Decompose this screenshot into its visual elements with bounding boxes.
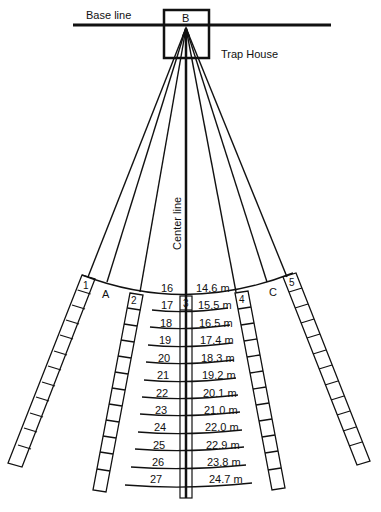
distance-20: 18.3 m bbox=[201, 353, 235, 364]
station-arc bbox=[82, 273, 293, 295]
distance-22: 20.1 m bbox=[203, 388, 237, 399]
row-22: 22 bbox=[156, 388, 168, 399]
row-25: 25 bbox=[153, 440, 165, 451]
row-23: 23 bbox=[155, 405, 167, 416]
distance-18: 16.5 m bbox=[199, 318, 233, 329]
station-4-label: 4 bbox=[239, 295, 245, 305]
station-1-label: 1 bbox=[83, 281, 89, 291]
row-16: 16 bbox=[161, 283, 173, 294]
fan-lines bbox=[88, 28, 287, 292]
distance-26: 23.8 m bbox=[207, 457, 241, 468]
trap-field-diagram bbox=[0, 0, 381, 512]
base-line-label: Base line bbox=[86, 10, 131, 21]
row-27: 27 bbox=[150, 474, 162, 485]
station-5-label: 5 bbox=[289, 278, 295, 288]
row-24: 24 bbox=[154, 422, 166, 433]
point-a-label: A bbox=[102, 289, 109, 300]
distance-21: 19.2 m bbox=[202, 370, 236, 381]
distance-25: 22.9 m bbox=[206, 440, 240, 451]
distance-19: 17.4 m bbox=[200, 335, 234, 346]
row-19: 19 bbox=[159, 335, 171, 346]
point-c-label: C bbox=[269, 287, 277, 298]
station-4-column bbox=[235, 291, 285, 490]
distance-27: 24.7 m bbox=[209, 474, 243, 485]
row-20: 20 bbox=[158, 353, 170, 364]
row-17: 17 bbox=[161, 300, 173, 311]
row-21: 21 bbox=[157, 370, 169, 381]
distance-24: 22.0 m bbox=[205, 422, 239, 433]
station-2-column bbox=[93, 293, 143, 492]
center-line-label: Center line bbox=[172, 197, 183, 250]
trap-house-label: Trap House bbox=[221, 49, 278, 60]
station-2-label: 2 bbox=[131, 296, 137, 306]
distance-16: 14.6 m bbox=[196, 283, 230, 294]
station-5-column bbox=[283, 273, 370, 465]
distance-23: 21.0 m bbox=[204, 405, 238, 416]
row-26: 26 bbox=[152, 457, 164, 468]
point-b-label: B bbox=[182, 13, 189, 24]
station-1-column bbox=[8, 275, 95, 467]
distance-17: 15.5 m bbox=[198, 300, 232, 311]
station-3-label: 3 bbox=[183, 299, 189, 309]
row-18: 18 bbox=[160, 318, 172, 329]
